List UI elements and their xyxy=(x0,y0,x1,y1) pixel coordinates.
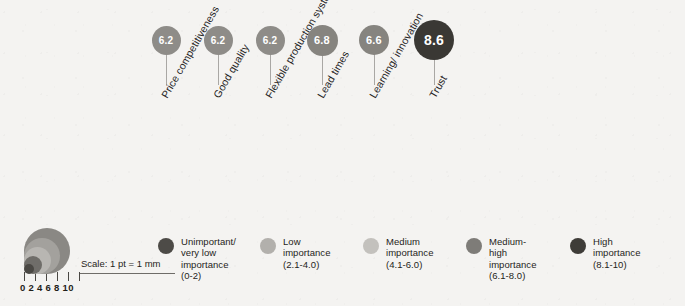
legend-item-label: High importance (8.1-10) xyxy=(593,236,640,270)
legend-item-label: Unimportant/ very low importance (0-2) xyxy=(181,236,236,282)
bubble-value-label: 6.6 xyxy=(366,34,382,46)
category-label: Learning/ innovation xyxy=(367,10,426,100)
legend-item-label: Medium-high importance (6.1-8.0) xyxy=(489,236,537,282)
legend: Unimportant/ very low importance (0-2)Lo… xyxy=(0,236,685,306)
bubble-value-label: 8.6 xyxy=(424,32,444,48)
bubble-marker[interactable]: 8.6 xyxy=(414,20,454,60)
legend-item-label: Low importance (2.1-4.0) xyxy=(283,236,330,270)
scale-ring xyxy=(24,264,34,274)
bubble-marker[interactable]: 6.2 xyxy=(256,26,285,55)
bubble-marker[interactable]: 6.2 xyxy=(204,26,233,55)
bubble-marker[interactable]: 6.6 xyxy=(359,25,389,55)
bubble-marker[interactable]: 6.8 xyxy=(307,25,338,56)
category-label: Lead times xyxy=(315,49,352,100)
bubble-value-label: 6.8 xyxy=(314,34,330,46)
legend-color-swatch xyxy=(158,238,174,254)
legend-color-swatch xyxy=(570,238,586,254)
bubble-marker[interactable]: 6.2 xyxy=(152,26,181,55)
legend-item-label: Medium importance (4.1-6.0) xyxy=(386,236,434,270)
category-label: Trust xyxy=(427,73,449,100)
bubble-value-label: 6.2 xyxy=(159,35,174,46)
legend-color-swatch xyxy=(260,238,276,254)
figure-canvas: 6.2Price competitiveness6.2Good quality6… xyxy=(0,0,685,306)
legend-color-swatch xyxy=(363,238,379,254)
bubble-value-label: 6.2 xyxy=(263,35,278,46)
bubble-value-label: 6.2 xyxy=(211,35,226,46)
legend-color-swatch xyxy=(466,238,482,254)
